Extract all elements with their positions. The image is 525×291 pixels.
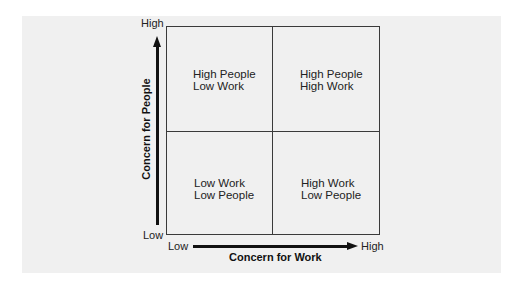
quadrant-top-left: High People Low Work bbox=[193, 68, 256, 92]
quadrant-bottom-left: Low Work Low People bbox=[194, 177, 254, 201]
arrow-right-icon bbox=[347, 242, 358, 250]
x-axis-title: Concern for Work bbox=[229, 251, 322, 263]
y-axis-low-label: Low bbox=[143, 229, 163, 241]
y-axis-line bbox=[156, 44, 159, 225]
quadrant-bottom-right: High Work Low People bbox=[301, 177, 361, 201]
quadrant-label-line: Low Work bbox=[194, 177, 254, 189]
x-axis-low-label: Low bbox=[168, 240, 188, 252]
quadrant-label-line: Low People bbox=[194, 189, 254, 201]
quadrant-label-line: High People bbox=[193, 68, 256, 80]
y-axis-high-label: High bbox=[141, 17, 164, 29]
quadrant-label-line: High People bbox=[300, 68, 363, 80]
quadrant-label-line: High Work bbox=[301, 177, 361, 189]
x-axis-high-label: High bbox=[361, 240, 384, 252]
x-axis-line bbox=[193, 245, 348, 248]
quadrant-label-line: Low People bbox=[301, 189, 361, 201]
quadrant-label-line: High Work bbox=[300, 80, 363, 92]
quadrant-top-right: High People High Work bbox=[300, 68, 363, 92]
quadrant-label-line: Low Work bbox=[193, 80, 256, 92]
grid-divider-horizontal bbox=[166, 131, 380, 132]
y-axis-title: Concern for People bbox=[140, 78, 152, 179]
